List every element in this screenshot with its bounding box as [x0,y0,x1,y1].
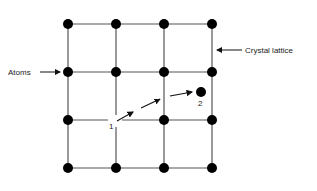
position-1-label: 1 [109,122,114,131]
diffusion-path-arrows [117,92,192,121]
lattice-grid [68,24,212,168]
crystal-lattice-label: Crystal lattice [245,46,294,55]
lattice-atoms [63,19,217,173]
position-2-label: 2 [198,99,203,108]
interstitial-atom [196,87,206,97]
atoms-label: Atoms [8,68,31,77]
diagram-canvas: Atoms Crystal lattice 1 2 [0,0,317,191]
